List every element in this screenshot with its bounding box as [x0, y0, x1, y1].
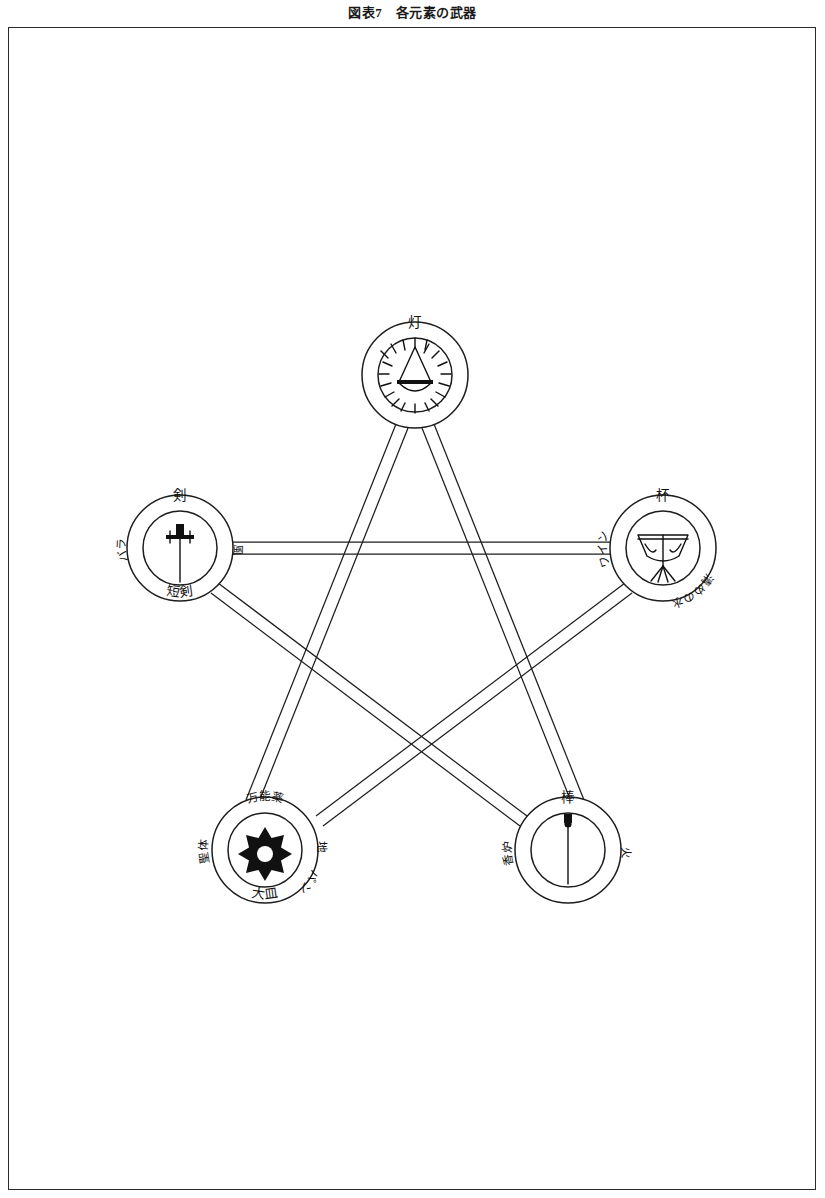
edge-sword-wand — [211, 583, 527, 826]
node-pentacle[interactable]: 万能薬 聖体 地 パン 大皿 — [196, 789, 328, 903]
node-sword-top-label: 剣 — [173, 488, 187, 503]
node-pentacle-right-label: 地 — [316, 841, 328, 853]
node-sword-right-label: 風 — [231, 544, 243, 556]
node-wand-right-label: 火 — [620, 847, 632, 859]
figure-page: 図表7 各元素の武器 — [0, 0, 825, 1198]
pentagram-canvas: 灯 剣 バラ 風 短剣 — [0, 0, 825, 1198]
node-wand[interactable]: 棒 香炉 火 — [501, 790, 632, 903]
node-sword[interactable]: 剣 バラ 風 短剣 — [115, 488, 243, 601]
pentacle-star-icon — [238, 827, 292, 881]
node-sword-left-label: バラ — [115, 537, 129, 563]
node-cup-top-label: 杯 — [656, 488, 670, 503]
edge-sword-cup — [233, 542, 610, 554]
edge-cup-pentacle — [316, 583, 632, 826]
edge-lamp-wand — [422, 424, 584, 804]
edge-lamp-pentacle — [246, 424, 408, 804]
node-lamp[interactable]: 灯 — [362, 315, 468, 428]
node-wand-left-label: 香炉 — [501, 841, 515, 867]
pentagram-edges — [211, 424, 632, 826]
node-wand-top-label: 棒 — [561, 790, 575, 805]
node-lamp-top-label: 灯 — [408, 315, 422, 330]
node-pentacle-left-label: 聖体 — [196, 839, 211, 865]
